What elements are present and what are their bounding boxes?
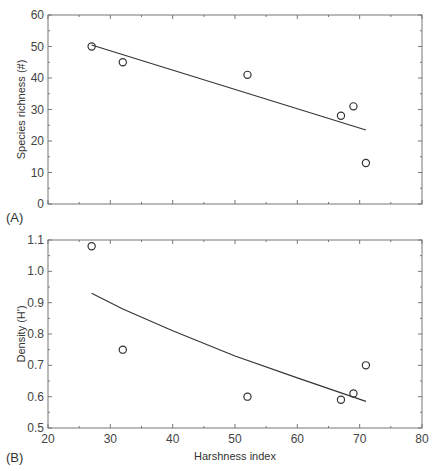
data-point (337, 396, 344, 403)
panel-a: 0102030405060Species richness (#)(A) (6, 8, 422, 225)
y-tick-label: 1.1 (27, 233, 44, 247)
fit-line (92, 45, 366, 130)
data-point (88, 43, 95, 50)
data-point (350, 103, 357, 110)
panel-b: 0.50.60.70.80.91.01.120304050607080Densi… (6, 233, 429, 465)
y-tick-label: 60 (31, 8, 45, 22)
data-point (244, 71, 251, 78)
y-tick-label: 1.0 (27, 264, 44, 278)
x-tick-label: 40 (166, 432, 180, 446)
panel-label: (A) (6, 210, 23, 225)
x-axis-title: Harshness index (194, 450, 276, 462)
x-tick-label: 20 (41, 432, 55, 446)
chart-figure: 0102030405060Species richness (#)(A)0.50… (0, 0, 436, 471)
y-axis-title: Species richness (#) (15, 60, 27, 160)
data-point (337, 112, 344, 119)
y-axis-title: Density (H') (15, 305, 27, 362)
y-tick-label: 40 (31, 71, 45, 85)
x-tick-label: 80 (415, 432, 429, 446)
data-point (362, 159, 369, 166)
x-tick-label: 50 (228, 432, 242, 446)
y-tick-label: 30 (31, 103, 45, 117)
x-tick-label: 30 (104, 432, 118, 446)
y-tick-label: 20 (31, 134, 45, 148)
y-tick-label: 0 (37, 197, 44, 211)
data-point (119, 346, 126, 353)
data-point (88, 243, 95, 250)
y-tick-label: 0.7 (27, 358, 44, 372)
data-point (244, 393, 251, 400)
y-tick-label: 50 (31, 40, 45, 54)
data-point (362, 362, 369, 369)
y-tick-label: 0.6 (27, 390, 44, 404)
panel-label: (B) (6, 450, 23, 465)
data-point (119, 59, 126, 66)
y-tick-label: 0.9 (27, 296, 44, 310)
y-tick-label: 10 (31, 166, 45, 180)
plot-frame (48, 15, 422, 204)
plot-frame (48, 240, 422, 428)
fit-line (92, 293, 366, 401)
x-tick-label: 70 (353, 432, 367, 446)
x-tick-label: 60 (291, 432, 305, 446)
y-tick-label: 0.8 (27, 327, 44, 341)
